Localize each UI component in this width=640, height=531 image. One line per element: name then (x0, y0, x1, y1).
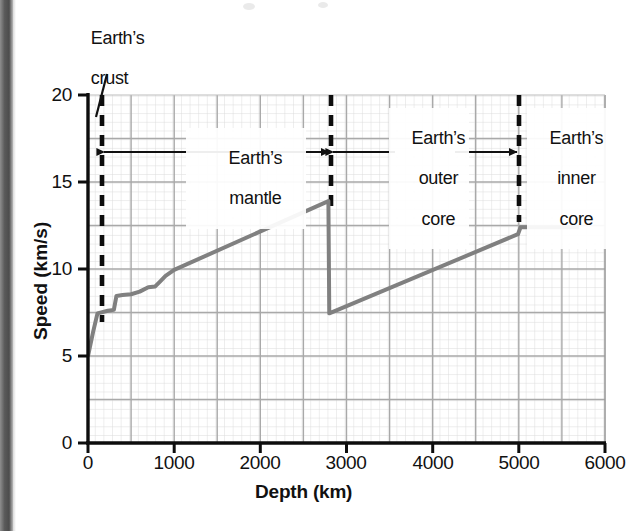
x-tick-6000: 6000 (584, 452, 625, 473)
y-tick-15: 15 (40, 171, 72, 192)
annotation-earths-inner-core: Earth’s inner core (527, 108, 607, 249)
earths-outer-core-line-1: Earth’s (412, 128, 466, 148)
annotation-earths-outer-core: Earth’s outer core (389, 108, 469, 249)
x-tick-2000: 2000 (239, 452, 280, 473)
earths-outer-core-line-3: core (421, 209, 455, 229)
earths-outer-core-line-2: outer (419, 168, 459, 188)
earths-inner-core-line-3: core (559, 209, 593, 229)
earths-inner-core-line-2: inner (557, 168, 596, 188)
x-tick-4000: 4000 (412, 452, 453, 473)
earths-inner-core-line-1: Earth’s (550, 128, 604, 148)
x-tick-0: 0 (83, 452, 93, 473)
earths-crust-line-2: crust (91, 68, 129, 88)
y-tick-5: 5 (40, 345, 72, 366)
x-tick-5000: 5000 (498, 452, 539, 473)
earths-crust-line-1: Earth’s (91, 28, 145, 48)
y-tick-0: 0 (40, 432, 72, 453)
seismic-wave-speed-chart: Speed (km/s) 20 15 10 5 0 0 1000 2000 30… (0, 0, 640, 531)
annotation-earths-crust: Earth’s crust (70, 8, 164, 109)
x-axis-title: Depth (km) (255, 481, 352, 502)
x-axis-tick-labels: 0 1000 2000 3000 4000 5000 6000 (0, 452, 640, 476)
annotation-earths-mantle: Earth’s mantle (186, 128, 306, 229)
y-tick-10: 10 (40, 258, 72, 279)
x-tick-3000: 3000 (325, 452, 366, 473)
y-axis-title: Speed (km/s) (30, 222, 51, 340)
y-tick-20: 20 (40, 84, 72, 105)
earths-mantle-line-1: Earth’s (229, 148, 283, 168)
earths-mantle-line-2: mantle (229, 188, 281, 208)
x-tick-1000: 1000 (153, 452, 194, 473)
